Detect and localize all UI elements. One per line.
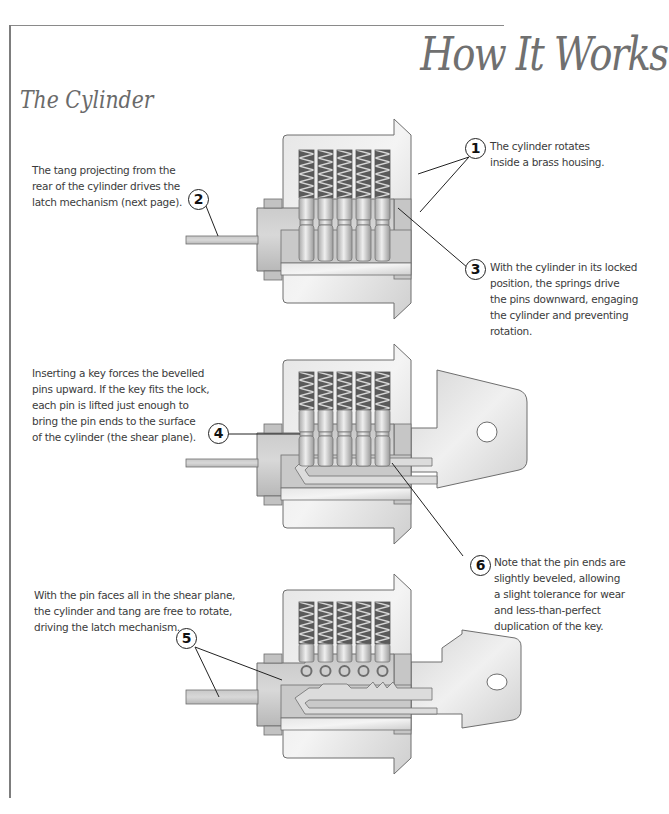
caption-line: With the cylinder in its locked [490, 260, 638, 276]
caption-line: Inserting a key forces the bevelled [32, 366, 209, 382]
caption-line: Note that the pin ends are [494, 555, 625, 571]
caption-line: the cylinder and tang are free to rotate… [34, 604, 235, 620]
caption-2: The tang projecting from the rear of the… [32, 163, 182, 211]
diagram-locked [257, 119, 411, 319]
caption-5: With the pin faces all in the shear plan… [34, 588, 235, 636]
diagram-rotated [257, 574, 521, 774]
caption-line: rear of the cylinder drives the [32, 179, 182, 195]
caption-line: and less-than-perfect [494, 603, 625, 619]
caption-line: a slight tolerance for wear [494, 587, 625, 603]
caption-line: position, the springs drive [490, 276, 638, 292]
caption-line: driving the latch mechanism. [34, 620, 235, 636]
caption-3: With the cylinder in its locked position… [490, 260, 638, 340]
caption-line: the pins downward, engaging [490, 292, 638, 308]
caption-line: rotation. [490, 324, 638, 340]
caption-6: Note that the pin ends are slightly beve… [494, 555, 625, 635]
caption-1: The cylinder rotates inside a brass hous… [490, 139, 604, 171]
caption-line: pins upward. If the key fits the lock, [32, 382, 209, 398]
callout-number-5: 5 [176, 628, 197, 649]
callout-number-2: 2 [188, 189, 209, 210]
callout-number-4: 4 [208, 423, 229, 444]
caption-line: inside a brass housing. [490, 155, 604, 171]
diagram-key-inserted [257, 344, 527, 544]
caption-line: The cylinder rotates [490, 139, 604, 155]
caption-line: the cylinder and preventing [490, 308, 638, 324]
callout-number-6: 6 [470, 555, 491, 576]
caption-line: slightly beveled, allowing [494, 571, 625, 587]
callout-number-3: 3 [465, 259, 486, 280]
caption-line: The tang projecting from the [32, 163, 182, 179]
callout-number-1: 1 [465, 138, 486, 159]
caption-line: bring the pin ends to the surface [32, 414, 209, 430]
caption-line: of the cylinder (the shear plane). [32, 430, 209, 446]
caption-line: With the pin faces all in the shear plan… [34, 588, 235, 604]
caption-line: each pin is lifted just enough to [32, 398, 209, 414]
caption-4: Inserting a key forces the bevelled pins… [32, 366, 209, 446]
caption-line: duplication of the key. [494, 619, 625, 635]
caption-line: latch mechanism (next page). [32, 195, 182, 211]
